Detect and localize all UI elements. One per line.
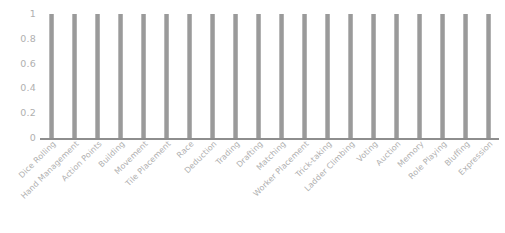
bar [302,14,308,138]
bar [164,14,170,138]
bar [72,14,78,138]
y-tick-label: 0.2 [20,108,36,118]
bar [463,14,469,138]
bar [486,14,492,138]
plot-area [40,14,500,138]
bar [417,14,423,138]
y-tick-label: 0.4 [20,84,36,94]
bar [95,14,101,138]
bar [371,14,377,138]
y-tick-label: 0 [30,133,36,143]
y-tick-label: 0.8 [20,34,36,44]
bar [348,14,354,138]
bar [49,14,55,138]
bar [256,14,262,138]
bar [118,14,124,138]
bar [325,14,331,138]
y-tick-label: 1 [30,9,36,19]
bar [233,14,239,138]
bar [141,14,147,138]
bar [279,14,285,138]
bar-chart: 00.20.40.60.81 Dice RollingHand Manageme… [0,0,505,233]
bar [210,14,216,138]
y-tick-label: 0.6 [20,59,36,69]
x-axis: Dice RollingHand ManagementAction Points… [40,140,505,233]
bar [440,14,446,138]
bar [187,14,193,138]
bar [394,14,400,138]
